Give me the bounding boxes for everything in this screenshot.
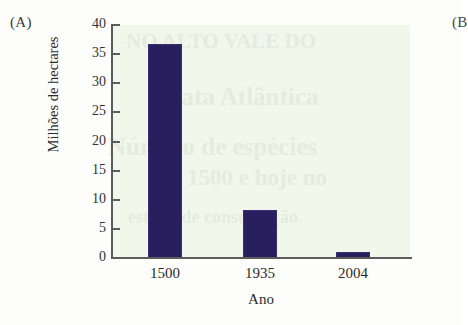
x-tick-label-2004: 2004 bbox=[318, 265, 388, 282]
y-tick-label-30: 30 bbox=[80, 75, 106, 89]
y-tick-label-35: 35 bbox=[80, 46, 106, 60]
y-tick-25 bbox=[113, 111, 120, 113]
x-axis-spine bbox=[111, 257, 412, 259]
y-tick-label-10: 10 bbox=[80, 192, 106, 206]
bleedthrough-text-line2: Mata Atlântica bbox=[158, 83, 318, 111]
y-tick-label-20: 20 bbox=[80, 134, 106, 148]
panel-label-b: (B bbox=[452, 14, 468, 31]
x-tick-label-1935: 1935 bbox=[225, 265, 295, 282]
x-axis-title: Ano bbox=[112, 291, 410, 308]
y-tick-label-0: 0 bbox=[80, 250, 106, 264]
y-tick-30 bbox=[113, 82, 120, 84]
bar-1500 bbox=[148, 44, 182, 258]
y-tick-15 bbox=[113, 170, 120, 172]
bar-1935 bbox=[243, 210, 277, 258]
y-tick-5 bbox=[113, 228, 120, 230]
y-tick-20 bbox=[113, 141, 120, 143]
y-tick-35 bbox=[113, 53, 120, 55]
y-tick-0 bbox=[113, 257, 120, 259]
y-tick-10 bbox=[113, 199, 120, 201]
y-tick-label-40: 40 bbox=[80, 17, 106, 31]
y-tick-40 bbox=[113, 24, 120, 26]
bleedthrough-text-line3: Número de espécies bbox=[108, 133, 317, 161]
y-axis-title: Milhões de hectares bbox=[45, 0, 62, 190]
plot-area: NO ALTO VALE DO Mata Atlântica Número de… bbox=[112, 25, 410, 258]
y-tick-label-15: 15 bbox=[80, 163, 106, 177]
x-tick-label-1500: 1500 bbox=[130, 265, 200, 282]
y-tick-label-25: 25 bbox=[80, 104, 106, 118]
panel-label-a: (A) bbox=[10, 14, 32, 31]
y-axis-tick-labels: 0510152025303540 bbox=[76, 0, 106, 325]
y-tick-label-5: 5 bbox=[80, 221, 106, 235]
